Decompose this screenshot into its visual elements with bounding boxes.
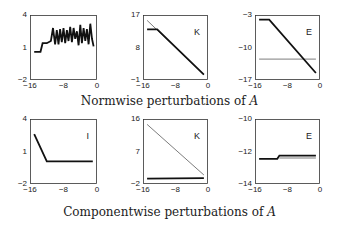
x-tick-label: −8 [54, 82, 74, 90]
y-tick-label: 4 [7, 115, 27, 123]
plot-panel-3: −3−10−17−16−80E [255, 15, 320, 80]
plot-area [255, 15, 320, 80]
panel-label: I [86, 131, 89, 141]
plot-area [143, 15, 208, 80]
x-tick-label: −16 [20, 186, 40, 194]
caption-componentwise: Componentwise perturbations of A [0, 205, 339, 219]
y-tick-label: 17 [120, 11, 140, 19]
y-tick-label: 7 [120, 148, 140, 156]
x-tick-label: −8 [166, 82, 186, 90]
x-tick-label: 0 [310, 186, 330, 194]
plot-panel-6: −10−12−14−16−80E [255, 119, 320, 184]
x-tick-label: −16 [133, 82, 153, 90]
panel-label: K [194, 27, 200, 37]
x-tick-label: 0 [310, 82, 330, 90]
caption-symbol: A [250, 94, 259, 108]
y-tick-label: −12 [232, 148, 252, 156]
y-tick-label: 8 [120, 44, 140, 52]
plot-panel-4: 41−2−16−80I [30, 119, 97, 184]
x-tick-label: 0 [87, 186, 107, 194]
y-tick-label: −10 [232, 115, 252, 123]
plot-panel-2: 178−1−16−80K [143, 15, 208, 80]
y-tick-label: −10 [232, 44, 252, 52]
caption-normwise: Normwise perturbations of A [0, 94, 339, 108]
x-tick-label: −16 [245, 82, 265, 90]
y-tick-label: −3 [232, 11, 252, 19]
y-tick-label: 1 [7, 148, 27, 156]
y-tick-label: 4 [7, 11, 27, 19]
x-tick-label: 0 [198, 186, 218, 194]
plot-area [30, 15, 97, 80]
series-thick [34, 24, 93, 52]
y-tick-label: 16 [120, 115, 140, 123]
x-tick-label: −16 [20, 82, 40, 90]
plot-area [30, 119, 97, 184]
x-tick-label: −8 [278, 186, 298, 194]
caption-symbol: A [267, 205, 276, 219]
series-thick [34, 134, 93, 161]
x-tick-label: 0 [198, 82, 218, 90]
x-tick-label: −8 [166, 186, 186, 194]
panel-label: K [194, 131, 200, 141]
x-tick-label: −8 [54, 186, 74, 194]
plot-panel-1: 41−2−16−80 [30, 15, 97, 80]
x-tick-label: −16 [133, 186, 153, 194]
x-tick-label: −8 [278, 82, 298, 90]
panel-label: E [306, 27, 312, 37]
x-tick-label: 0 [87, 82, 107, 90]
plot-area [255, 119, 320, 184]
plot-panel-5: 167−2−16−80K [143, 119, 208, 184]
x-tick-label: −16 [245, 186, 265, 194]
y-tick-label: 1 [7, 44, 27, 52]
panel-label: E [306, 131, 312, 141]
caption-normwise-text: Normwise perturbations of [81, 94, 246, 108]
plot-area [143, 119, 208, 184]
caption-componentwise-text: Componentwise perturbations of [63, 205, 263, 219]
